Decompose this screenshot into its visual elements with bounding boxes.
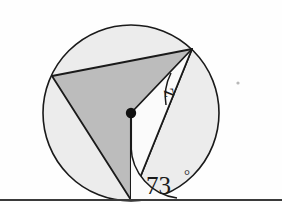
degree-symbol-icon: ° — [184, 167, 190, 183]
angle-73-value-label: 73 — [146, 172, 171, 199]
circle-center-dot — [126, 108, 136, 118]
geometry-figure-container: z 73 ° — [0, 0, 282, 204]
scan-speck-artifact — [236, 81, 239, 84]
geometry-diagram: z 73 ° — [0, 0, 282, 204]
